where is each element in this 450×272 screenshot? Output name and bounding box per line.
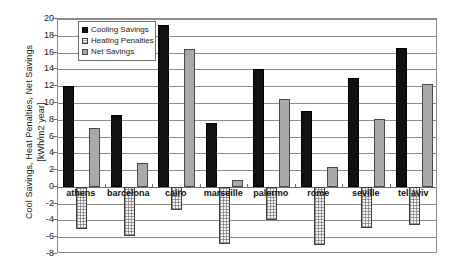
bar-net — [89, 128, 100, 187]
bar-net — [374, 119, 385, 187]
x-category-label-seville: seville — [352, 188, 380, 198]
legend-item-cooling-savings: Cooling Savings — [82, 24, 152, 35]
legend-label-net: Net Savings — [91, 47, 134, 56]
y-tick-label: -8 — [28, 248, 54, 258]
bar-net — [279, 99, 290, 187]
bar-group — [201, 19, 249, 252]
y-tick-label: 0 — [28, 181, 54, 191]
legend-swatch-icon-net — [82, 49, 88, 55]
y-tick-label: 6 — [28, 131, 54, 141]
x-tick-mark — [295, 184, 296, 188]
x-tick-mark — [57, 184, 58, 188]
bar-net — [137, 163, 148, 187]
y-tick-label: -2 — [28, 198, 54, 208]
x-category-label-palermo: palermo — [253, 188, 288, 198]
y-tick-label: -4 — [28, 214, 54, 224]
x-tick-mark — [390, 184, 391, 188]
x-category-label-cairo: cairo — [165, 188, 187, 198]
bar-cooling — [301, 111, 312, 187]
y-tick-label: 10 — [28, 97, 54, 107]
y-tick-label: -6 — [28, 231, 54, 241]
x-category-label-rome: rome — [307, 188, 329, 198]
legend-item-net-savings: Net Savings — [82, 46, 152, 57]
bar-net — [327, 167, 338, 187]
x-tick-mark — [247, 184, 248, 188]
y-tick-label: 16 — [28, 47, 54, 57]
x-tick-mark — [152, 184, 153, 188]
x-tick-mark — [342, 184, 343, 188]
x-tick-mark — [105, 184, 106, 188]
y-tick-label: 12 — [28, 80, 54, 90]
bar-cooling — [348, 78, 359, 187]
bar-group — [343, 19, 391, 252]
y-tick-label: 20 — [28, 13, 54, 23]
legend-label-cooling: Cooling Savings — [91, 25, 149, 34]
y-tick-label: 4 — [28, 147, 54, 157]
bar-cooling — [158, 25, 169, 187]
bar-group — [391, 19, 438, 252]
legend-item-heating-penalties: Heating Penalties — [82, 35, 152, 46]
y-tick-label: 2 — [28, 164, 54, 174]
bar-chart: Cool Savings, Heat Penalties, Net Saving… — [0, 0, 450, 272]
chart-legend: Cooling Savings Heating Penalties Net Sa… — [78, 21, 156, 61]
y-tick-label: 8 — [28, 114, 54, 124]
bar-net — [232, 180, 243, 187]
legend-label-heating: Heating Penalties — [91, 36, 154, 45]
x-tick-mark — [200, 184, 201, 188]
x-category-label-tel-aviv: tel aviv — [398, 188, 429, 198]
x-category-label-barcelona: barcelona — [107, 188, 150, 198]
bar-cooling — [253, 69, 264, 187]
bar-cooling — [206, 123, 217, 187]
y-tick-label: 14 — [28, 63, 54, 73]
y-tick-mark — [52, 253, 57, 254]
y-tick-label: 18 — [28, 30, 54, 40]
bar-net — [422, 84, 433, 186]
bar-group — [153, 19, 201, 252]
bar-net — [184, 49, 195, 187]
bar-cooling — [63, 86, 74, 187]
legend-swatch-icon-heating — [82, 38, 88, 44]
bar-cooling — [111, 115, 122, 187]
x-category-label-marseille: marseille — [204, 188, 243, 198]
bar-group — [248, 19, 296, 252]
bar-group — [296, 19, 344, 252]
x-category-label-athens: athens — [66, 188, 95, 198]
legend-swatch-icon-cooling — [82, 27, 88, 33]
bar-cooling — [396, 48, 407, 186]
